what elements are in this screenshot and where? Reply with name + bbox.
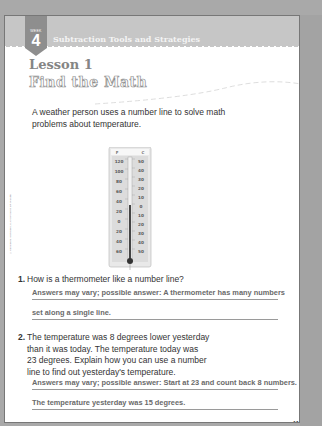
week-number: 4 (25, 33, 47, 49)
svg-text:30: 30 (138, 177, 144, 182)
week-label: WEEK (25, 16, 47, 33)
page-footer: Week 4 Subtraction Tools and Strategies … (175, 420, 299, 423)
intro-paragraph: A weather person uses a number line to s… (32, 107, 232, 130)
svg-text:20: 20 (116, 209, 122, 214)
decorative-dashed-curve (35, 76, 300, 106)
svg-text:0: 0 (118, 219, 121, 224)
footer-divider: | (287, 422, 288, 423)
question-text-line: 23 degrees. Explain how you can use a nu… (27, 355, 207, 367)
question-text: How is a thermometer like a number line? (27, 274, 184, 286)
workbook-page: WEEK 4 Subtraction Tools and Strategies … (4, 15, 300, 423)
footer-separator: • (270, 422, 271, 423)
svg-text:40: 40 (116, 199, 122, 204)
svg-text:0: 0 (140, 204, 143, 209)
answer-line[interactable]: Answers may vary; possible answer: A the… (32, 288, 278, 300)
svg-text:50: 50 (138, 249, 144, 254)
banner-scallop-edge (5, 44, 299, 49)
svg-text:20: 20 (138, 186, 144, 191)
footer-week: Week 4 (199, 422, 211, 423)
footer-unit: Subtraction Tools and Strategies (212, 422, 268, 423)
answer-line[interactable]: Answers may vary; possible answer: Start… (32, 378, 278, 390)
svg-text:40: 40 (138, 240, 144, 245)
question-1: 1. How is a thermometer like a number li… (18, 274, 288, 286)
svg-text:10: 10 (138, 195, 144, 200)
answer-line[interactable]: The temperature yesterday was 15 degrees… (32, 398, 278, 410)
page-number: 41 (292, 420, 299, 423)
thermometer-icon: F C 120 100 80 60 40 20 0 20 40 60 50 40… (108, 147, 152, 271)
question-number: 2. (18, 332, 25, 344)
question-number: 1. (18, 274, 25, 286)
svg-text:20: 20 (138, 222, 144, 227)
svg-text:20: 20 (116, 229, 122, 234)
intro-line: problems about temperature. (32, 119, 232, 131)
svg-text:60: 60 (116, 189, 122, 194)
week-badge: WEEK 4 (25, 16, 47, 56)
question-text-line: than it was today. The temperature today… (27, 344, 198, 356)
svg-text:40: 40 (116, 239, 122, 244)
svg-text:C: C (142, 150, 145, 155)
copyright-credit: ©Curriculum Associates, LLC Copying is n… (9, 194, 15, 254)
question-2: 2. The temperature was 8 degrees lower y… (18, 332, 288, 382)
footer-lesson: Lesson 1 (272, 422, 287, 423)
intro-line: A weather person uses a number line to s… (32, 107, 232, 119)
svg-text:80: 80 (116, 179, 122, 184)
page-edge-shadow (300, 15, 322, 426)
svg-text:100: 100 (115, 169, 124, 174)
lesson-number: Lesson 1 (29, 57, 93, 72)
svg-text:60: 60 (116, 249, 122, 254)
svg-text:40: 40 (138, 168, 144, 173)
unit-title: Subtraction Tools and Strategies (53, 34, 200, 44)
svg-text:10: 10 (138, 213, 144, 218)
svg-text:120: 120 (115, 159, 124, 164)
answer-line[interactable]: set along a single line. (32, 308, 278, 320)
thermometer-image: F C 120 100 80 60 40 20 0 20 40 60 50 40… (108, 147, 152, 271)
svg-text:F: F (116, 150, 119, 155)
svg-text:30: 30 (138, 231, 144, 236)
question-text-line: The temperature was 8 degrees lower yest… (27, 332, 209, 344)
svg-text:50: 50 (138, 159, 144, 164)
question-text-line: line to find out yesterday's temperature… (27, 367, 176, 379)
